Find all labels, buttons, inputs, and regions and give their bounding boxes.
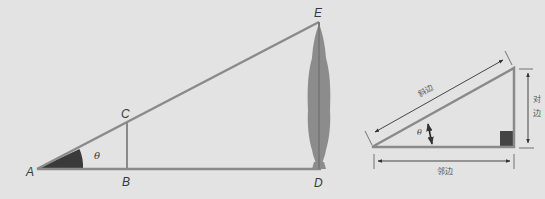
right-angle-label-theta: θ [417, 129, 422, 137]
diagram-canvas [0, 0, 545, 199]
point-label-A: A [26, 166, 34, 178]
angle-arrow-icon [428, 124, 432, 144]
angle-label-theta: θ [94, 151, 100, 161]
right-triangle [372, 68, 514, 147]
right-figure [365, 51, 534, 169]
hypotenuse-arrow-icon [375, 60, 503, 132]
point-label-E: E [314, 7, 322, 19]
trigonometry-diagram: A B C D E θ 斜边 对 边 邻边 θ [0, 0, 545, 199]
left-figure [37, 22, 330, 169]
opposite-label-line1: 对 [533, 96, 541, 105]
line-AE [37, 22, 319, 169]
point-label-D: D [314, 177, 323, 189]
point-label-B: B [122, 176, 130, 188]
opposite-label-line2: 边 [533, 110, 541, 119]
adjacent-label: 邻边 [437, 168, 453, 177]
point-label-C: C [121, 108, 130, 120]
right-angle-marker-icon [500, 131, 513, 146]
